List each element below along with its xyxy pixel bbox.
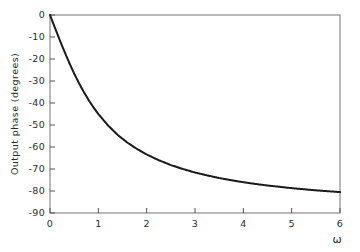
- y-tick-label: -50: [29, 119, 45, 130]
- y-tick-label: -10: [29, 31, 45, 42]
- y-tick-label: -90: [29, 207, 45, 218]
- chart-figure: 0-10-20-30-40-50-60-70-80-90 0123456 Out…: [0, 0, 360, 252]
- y-tick-label: 0: [39, 9, 45, 20]
- figure-background: [0, 0, 360, 252]
- x-tick-label: 3: [192, 218, 198, 229]
- x-axis-title: ω: [332, 233, 341, 246]
- x-tick-label: 4: [240, 218, 246, 229]
- y-tick-label: -20: [29, 53, 45, 64]
- x-tick-label: 6: [337, 218, 343, 229]
- y-tick-label: -70: [29, 163, 45, 174]
- x-tick-label: 5: [288, 218, 294, 229]
- y-tick-label: -40: [29, 97, 45, 108]
- x-tick-label: 1: [95, 218, 101, 229]
- y-tick-label: -80: [29, 185, 45, 196]
- y-tick-label: -60: [29, 141, 45, 152]
- y-tick-label: -30: [29, 75, 45, 86]
- x-tick-label: 2: [143, 218, 149, 229]
- y-axis-title: Output phase (degrees): [9, 53, 20, 175]
- x-tick-label: 0: [47, 218, 53, 229]
